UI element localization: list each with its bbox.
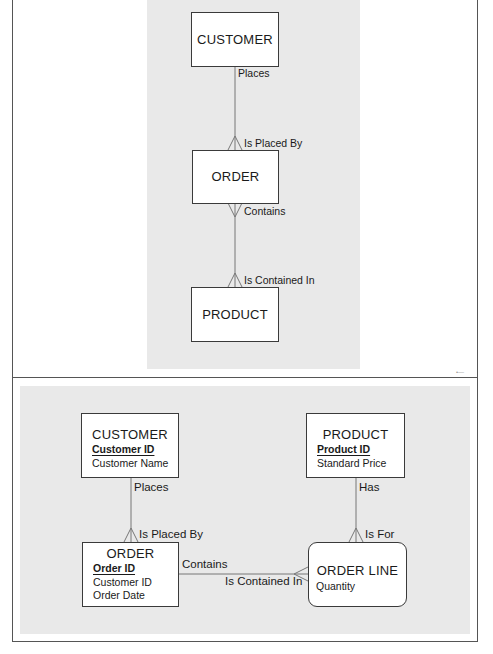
bottom-entity-order: ORDER Order ID Customer ID Order Date xyxy=(82,542,179,607)
entity-title: ORDER LINE xyxy=(309,563,406,578)
rel-label-contains: Contains xyxy=(182,558,227,570)
attribute: Order Date xyxy=(93,589,145,601)
primary-key-attribute: Order ID xyxy=(93,562,135,574)
entity-title: CUSTOMER xyxy=(82,427,178,442)
entity-title: ORDER xyxy=(83,546,178,561)
rel-label-is-placed-by: Is Placed By xyxy=(139,528,203,540)
bottom-entity-customer: CUSTOMER Customer ID Customer Name xyxy=(81,413,179,478)
attribute: Standard Price xyxy=(317,457,386,469)
attribute: Customer ID xyxy=(93,576,152,588)
bottom-entity-order-line: ORDER LINE Quantity xyxy=(308,542,407,607)
rel-label-has: Has xyxy=(359,481,379,493)
rel-label-places: Places xyxy=(134,481,169,493)
rel-label-is-for: Is For xyxy=(365,528,394,540)
attribute: Quantity xyxy=(316,580,355,592)
attribute: Customer Name xyxy=(92,457,168,469)
entity-title: PRODUCT xyxy=(307,427,404,442)
primary-key-attribute: Product ID xyxy=(317,443,370,455)
rel-label-is-contained-in: Is Contained In xyxy=(225,575,302,587)
bottom-entity-product: PRODUCT Product ID Standard Price xyxy=(306,413,405,478)
primary-key-attribute: Customer ID xyxy=(92,443,154,455)
bottom-connectors xyxy=(0,0,493,654)
